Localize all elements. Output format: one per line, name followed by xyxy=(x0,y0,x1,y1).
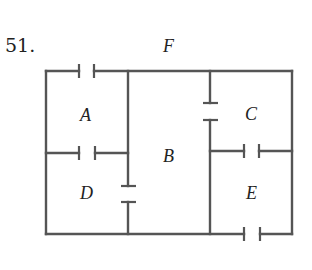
label-C: C xyxy=(245,104,257,125)
center-right-capacitor xyxy=(203,71,218,234)
label-D: D xyxy=(80,183,93,204)
label-E: E xyxy=(246,183,257,204)
circuit-diagram xyxy=(0,0,312,270)
bottom-capacitor xyxy=(46,227,292,241)
top-capacitor xyxy=(46,64,292,78)
label-B: B xyxy=(163,146,174,167)
left-branch-capacitor xyxy=(46,146,128,160)
label-A: A xyxy=(80,105,91,126)
label-F: F xyxy=(163,36,174,57)
right-branch-capacitor xyxy=(210,144,292,158)
